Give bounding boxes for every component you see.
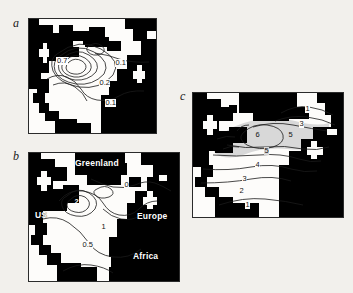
geo-label-africa: Africa xyxy=(133,251,158,261)
panel-label-c: c xyxy=(180,90,185,102)
contour-label-c-7: 2 xyxy=(239,187,244,195)
contour-label-c-4: 5 xyxy=(264,147,269,155)
panel-a: 0.7 0.2 0.1 0.1 xyxy=(28,18,157,134)
contour-label-b-3: 2 xyxy=(74,198,79,206)
contour-label-b-0: 0 xyxy=(124,181,129,189)
contour-label-c-2: 5 xyxy=(288,131,293,139)
geo-label-europe: Europe xyxy=(137,211,167,221)
contour-label-b-1: 1 xyxy=(101,223,106,231)
contour-label-c-5: 4 xyxy=(255,161,260,169)
contour-label-c-0: 1 xyxy=(305,105,310,113)
contour-label-c-8: 1 xyxy=(245,201,250,209)
panel-label-b: b xyxy=(13,150,19,162)
panel-b: Greenland US Europe Africa 0 2 1 0.5 xyxy=(28,152,180,282)
panel-label-a: a xyxy=(13,17,19,29)
contour-label-a-1: 0.2 xyxy=(99,79,110,87)
contour-label-a-3: 0.1 xyxy=(105,99,116,107)
panel-c: 1 3 5 6 5 4 3 2 1 xyxy=(192,92,344,218)
geo-label-us: US xyxy=(35,210,47,220)
contour-label-a-2: 0.1 xyxy=(115,59,126,67)
contour-label-b-2: 0.5 xyxy=(82,241,93,249)
panel-c-map xyxy=(193,93,343,217)
panel-a-map xyxy=(29,19,156,133)
geo-label-greenland: Greenland xyxy=(75,158,119,168)
contour-label-c-1: 3 xyxy=(299,120,304,128)
contour-label-c-3: 6 xyxy=(255,131,260,139)
contour-label-c-6: 3 xyxy=(242,175,247,183)
contour-label-a-0: 0.7 xyxy=(56,57,68,65)
figure-container: a xyxy=(0,0,353,293)
